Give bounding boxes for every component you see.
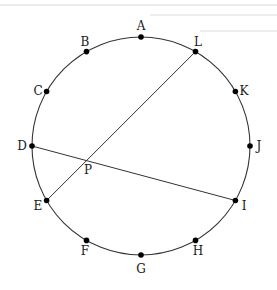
point-label-h: H (193, 244, 203, 258)
circle (32, 37, 250, 255)
point-label-c: C (33, 84, 42, 98)
point-a (138, 34, 144, 40)
point-label-l: L (194, 35, 202, 49)
point-h (193, 238, 199, 244)
point-c (44, 89, 50, 95)
point-k (233, 89, 239, 95)
point-label-k: K (240, 84, 250, 98)
point-label-g: G (136, 262, 146, 276)
chords-group (32, 52, 235, 201)
labels-group: ABCDEFGHIJKL (17, 19, 261, 276)
chord-le (47, 52, 196, 201)
point-label-f: F (81, 244, 89, 258)
point-j (247, 143, 253, 149)
point-label-i: I (242, 199, 247, 213)
point-i (233, 198, 239, 204)
point-label-b: B (81, 35, 90, 49)
point-d (29, 143, 35, 149)
point-b (84, 49, 90, 55)
point-label-e: E (34, 199, 43, 213)
point-label-d: D (17, 139, 27, 153)
point-label-a: A (136, 19, 146, 33)
point-label-j: J (255, 139, 262, 153)
circle-diagram: ABCDEFGHIJKL P (0, 0, 277, 290)
point-l (193, 49, 199, 55)
point-e (44, 198, 50, 204)
point-g (138, 252, 144, 258)
point-f (84, 238, 90, 244)
intersection-label-p: P (84, 163, 92, 177)
chord-di (32, 146, 235, 201)
points-group (29, 34, 253, 258)
